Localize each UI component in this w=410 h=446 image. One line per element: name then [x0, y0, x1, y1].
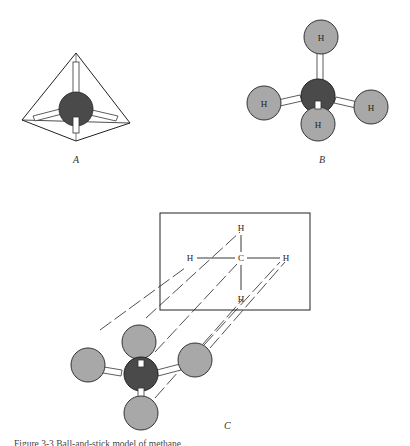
panel-label-b: B: [319, 154, 325, 165]
panel-label-c: C: [224, 420, 231, 431]
projection-c-center: C: [238, 253, 244, 263]
panel-b-methane-model: H H H H: [247, 20, 388, 141]
projection-h-top: H: [238, 223, 245, 233]
panel-c-projection: H H C H H: [71, 213, 310, 430]
projection-h-right: H: [283, 253, 290, 263]
hydrogen-label: H: [315, 120, 322, 130]
projection-h-bottom: H: [238, 294, 245, 304]
figure-caption: Figure 3-3 Ball-and-stick model of metha…: [14, 436, 188, 446]
panel-a-tetrahedron: [22, 53, 130, 141]
hydrogen-label: H: [318, 33, 325, 43]
panel-label-a: A: [73, 154, 79, 165]
projection-h-left: H: [187, 253, 194, 263]
hydrogen-label: H: [261, 99, 268, 109]
figure-canvas: H H H H H H C H H: [0, 0, 410, 446]
hydrogen-label: H: [368, 103, 375, 113]
